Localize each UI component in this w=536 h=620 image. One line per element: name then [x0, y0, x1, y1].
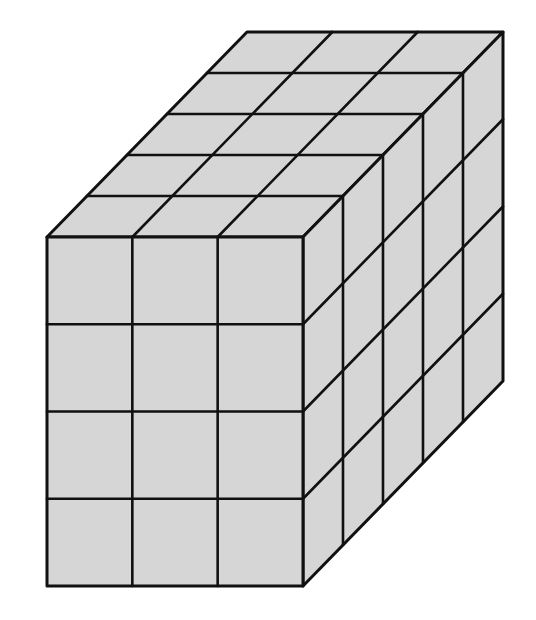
cube-prism-diagram	[0, 0, 536, 620]
front-face	[47, 237, 303, 586]
prism-svg	[0, 0, 536, 620]
